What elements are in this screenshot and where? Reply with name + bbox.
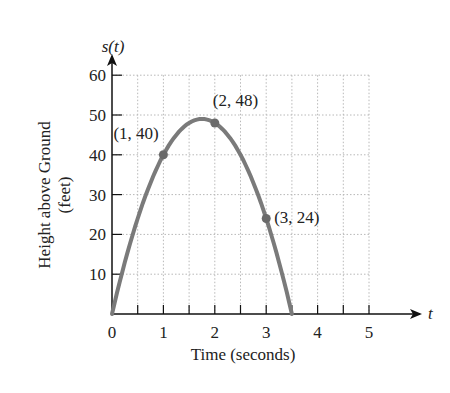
y-tick-label: 50 [89, 106, 106, 125]
y-tick-label: 60 [89, 66, 106, 85]
data-point [159, 150, 168, 159]
data-point [262, 214, 271, 223]
point-annotation: (2, 48) [213, 91, 258, 110]
x-tick-label: 4 [313, 323, 322, 342]
x-tick-label: 3 [262, 323, 271, 342]
chart: 102030405060012345 (1, 40)(2, 48)(3, 24)… [0, 0, 450, 393]
y-axis-label-line2: (feet) [55, 177, 74, 214]
data-points: (1, 40)(2, 48)(3, 24) [113, 91, 319, 228]
data-point [210, 118, 219, 127]
y-tick-label: 30 [89, 186, 106, 205]
y-axis-label-line1: Height above Ground [35, 121, 54, 269]
point-annotation: (1, 40) [113, 124, 158, 143]
x-tick-label: 0 [108, 323, 117, 342]
x-axis-variable: t [428, 304, 434, 323]
y-tick-label: 20 [89, 225, 106, 244]
x-tick-label: 5 [365, 323, 374, 342]
grid [112, 75, 369, 314]
x-axis-label: Time (seconds) [191, 345, 296, 364]
y-axis-variable: s(t) [102, 37, 125, 56]
point-annotation: (3, 24) [274, 208, 319, 227]
y-tick-label: 10 [89, 265, 106, 284]
y-tick-label: 40 [89, 146, 106, 165]
x-tick-label: 2 [211, 323, 220, 342]
x-tick-label: 1 [159, 323, 168, 342]
